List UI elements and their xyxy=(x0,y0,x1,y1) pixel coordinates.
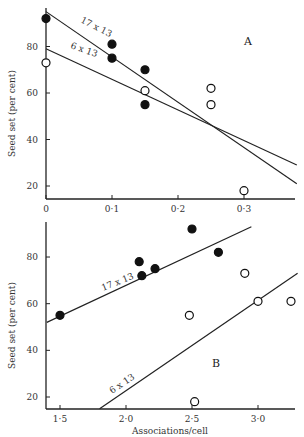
x-tick-label: 0·3 xyxy=(237,204,252,214)
data-point-17x13 xyxy=(141,101,149,109)
data-point-17x13 xyxy=(135,258,143,266)
fit-line-17x13 xyxy=(47,227,252,323)
data-point-17x13 xyxy=(56,311,64,319)
line-label-17x13: 17 x 13 xyxy=(79,15,114,39)
data-point-6x13 xyxy=(141,87,149,95)
fit-line-6x13 xyxy=(46,49,297,165)
line-label-6x13: 6 x 13 xyxy=(69,40,99,59)
y-tick-label: 20 xyxy=(27,392,39,402)
seed-set-chart: 2040608000·10·20·317 x 136 x 13ASeed set… xyxy=(0,0,304,437)
panel-letter: B xyxy=(212,357,220,370)
data-point-6x13 xyxy=(241,269,249,277)
x-tick-label: 1·5 xyxy=(53,414,68,424)
data-point-17x13 xyxy=(151,265,159,273)
data-point-17x13 xyxy=(141,66,149,74)
x-tick-label: 0 xyxy=(43,204,49,214)
y-tick-label: 80 xyxy=(27,42,39,52)
x-tick-label: 2·5 xyxy=(185,414,200,424)
data-point-17x13 xyxy=(214,248,222,256)
x-tick-label: 0·1 xyxy=(105,204,119,214)
data-point-17x13 xyxy=(188,225,196,233)
y-axis-title: Seed set (per cent) xyxy=(7,70,17,157)
y-tick-label: 40 xyxy=(27,345,39,355)
fit-line-6x13 xyxy=(100,273,298,408)
data-point-6x13 xyxy=(254,297,262,305)
data-point-17x13 xyxy=(108,54,116,62)
y-axis-title: Seed set (per cent) xyxy=(7,282,17,369)
data-point-17x13 xyxy=(138,272,146,280)
data-point-6x13 xyxy=(287,297,295,305)
data-point-17x13 xyxy=(108,40,116,48)
y-tick-label: 80 xyxy=(27,252,39,262)
data-point-17x13 xyxy=(42,15,50,23)
y-tick-label: 20 xyxy=(27,181,39,191)
line-label-6x13: 6 x 13 xyxy=(108,372,137,396)
x-axis-title: Associations/cell xyxy=(131,426,208,436)
x-tick-label: 2·0 xyxy=(119,414,134,424)
data-point-6x13 xyxy=(207,84,215,92)
data-point-6x13 xyxy=(240,187,248,195)
data-point-6x13 xyxy=(185,311,193,319)
x-tick-label: 3·0 xyxy=(251,414,266,424)
panel-letter: A xyxy=(243,35,253,48)
data-point-6x13 xyxy=(42,59,50,67)
fit-line-17x13 xyxy=(46,12,297,184)
data-point-6x13 xyxy=(191,398,199,406)
data-point-6x13 xyxy=(207,101,215,109)
x-tick-label: 0·2 xyxy=(171,204,185,214)
y-tick-label: 40 xyxy=(27,135,39,145)
y-tick-label: 60 xyxy=(27,88,39,98)
y-tick-label: 60 xyxy=(27,299,39,309)
